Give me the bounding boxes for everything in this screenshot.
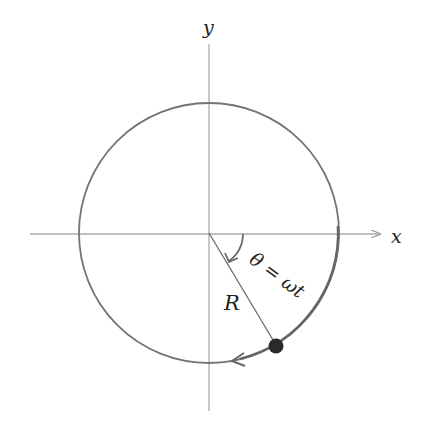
particle xyxy=(269,339,284,354)
angle-label: θ = ωt xyxy=(246,247,310,302)
angle-arc xyxy=(229,234,243,261)
y-axis-label: y xyxy=(202,16,214,38)
circular-motion-diagram: y x R θ = ωt xyxy=(0,0,437,433)
radius-label: R xyxy=(223,291,240,315)
radius-line xyxy=(209,233,276,345)
x-axis-label: x xyxy=(391,225,402,247)
